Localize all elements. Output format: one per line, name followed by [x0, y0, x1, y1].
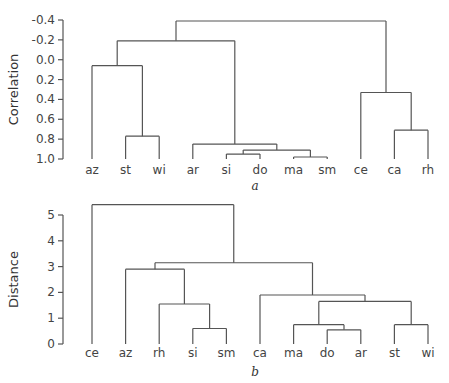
panel-b-leaf-label: wi: [421, 346, 434, 360]
panel-a-panel-label: a: [251, 179, 258, 193]
panel-a-y-tick-label: 0.4: [36, 92, 55, 106]
panel-a-leaf-label: do: [253, 163, 268, 177]
panel-a-y-axis-title: Correlation: [6, 54, 21, 126]
dendrogram-figure: -0.4-0.20.00.20.40.60.81.0Correlationazs…: [0, 0, 449, 383]
panel-b-leaf-label: az: [119, 346, 133, 360]
panel-b-leaf-label: ca: [253, 346, 267, 360]
panel-b-y-tick-label: 2: [47, 285, 55, 299]
panel-b-leaf-label: do: [320, 346, 335, 360]
panel-b-leaf-label: sm: [217, 346, 235, 360]
panel-a-y-tick-label: 0.2: [36, 73, 55, 87]
panel-b-y-tick-label: 4: [47, 234, 55, 248]
panel-b-leaf-label: st: [389, 346, 400, 360]
panel-b-y-axis-title: Distance: [6, 251, 21, 308]
panel-b-y-tick-label: 1: [47, 311, 55, 325]
panel-a-leaf-label: ma: [284, 163, 303, 177]
panel-a-leaf-label: sm: [318, 163, 336, 177]
panel-a-leaf-label: ar: [187, 163, 199, 177]
panel-b-leaf-label: ce: [85, 346, 99, 360]
panel-a-leaf-label: st: [120, 163, 131, 177]
panel-a-leaf-label: wi: [153, 163, 166, 177]
panel-a-y-tick-label: 0.6: [36, 112, 55, 126]
panel-a-y-tick-label: 1.0: [36, 152, 55, 166]
panel-a-leaf-label: ce: [354, 163, 368, 177]
panel-b-leaf-label: ma: [284, 346, 303, 360]
panel-b-leaf-label: ar: [355, 346, 367, 360]
panel-a-leaf-label: si: [222, 163, 232, 177]
panel-b-y-tick-label: 3: [47, 260, 55, 274]
panel-a-leaf-label: ca: [387, 163, 401, 177]
panel-b-y-tick-label: 5: [47, 208, 55, 222]
panel-a-leaf-label: az: [85, 163, 99, 177]
panel-a-y-tick-label: -0.4: [32, 13, 55, 27]
panel-a-y-tick-label: -0.2: [32, 33, 55, 47]
panel-b-panel-label: b: [251, 365, 259, 379]
panel-a-y-tick-label: 0.0: [36, 53, 55, 67]
panel-a-y-tick-label: 0.8: [36, 132, 55, 146]
panel-b-leaf-label: rh: [153, 346, 165, 360]
panel-b-leaf-label: si: [188, 346, 198, 360]
panel-a-leaf-label: rh: [422, 163, 434, 177]
panel-b-y-tick-label: 0: [47, 337, 55, 351]
